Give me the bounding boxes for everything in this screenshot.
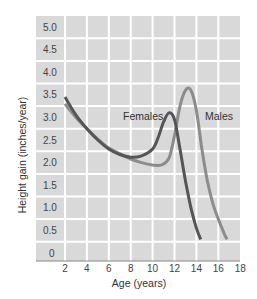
x-tick-label: 10 xyxy=(147,263,159,274)
x-tick-label: 18 xyxy=(235,263,247,274)
y-tick-label: 0 xyxy=(49,248,55,259)
y-tick-label: 1.0 xyxy=(43,202,57,213)
y-tick-label: 0.5 xyxy=(43,225,57,236)
y-tick-label: 4.0 xyxy=(43,67,57,78)
plot-background xyxy=(36,16,240,261)
height-gain-chart: 00.51.01.52.02.53.03.54.04.55.0 24681012… xyxy=(0,0,257,299)
x-tick-label: 6 xyxy=(106,263,112,274)
y-tick-label: 4.5 xyxy=(43,44,57,55)
x-tick-label: 8 xyxy=(128,263,134,274)
x-tick-label: 16 xyxy=(213,263,225,274)
x-tick-label: 4 xyxy=(84,263,90,274)
x-axis-title: Age (years) xyxy=(112,277,166,289)
y-tick-label: 2.5 xyxy=(43,135,57,146)
y-tick-label: 5.0 xyxy=(43,22,57,33)
x-tick-label: 14 xyxy=(191,263,203,274)
x-tick-label: 2 xyxy=(62,263,68,274)
y-tick-label: 3.0 xyxy=(43,112,57,123)
y-tick-label: 2.0 xyxy=(43,157,57,168)
males-label: Males xyxy=(205,110,233,122)
y-tick-label: 1.5 xyxy=(43,180,57,191)
y-tick-label: 3.5 xyxy=(43,89,57,100)
x-axis-ticks: 24681012141618 xyxy=(62,263,246,274)
females-label: Females xyxy=(123,110,163,122)
x-tick-label: 12 xyxy=(169,263,181,274)
y-axis-title: Height gain (inches/year) xyxy=(16,97,28,214)
